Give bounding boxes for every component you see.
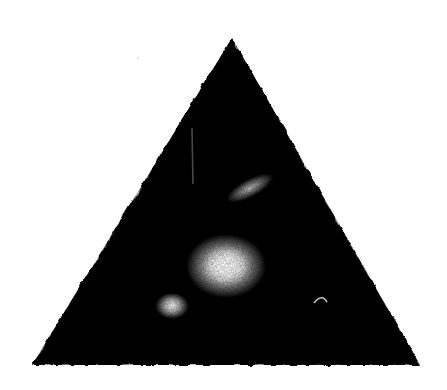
artboard: Triangle Halftone Print High-contrast bl… [0,0,447,390]
triangle-artwork-svg [0,0,447,390]
paper-speck [136,56,139,59]
vertical-scratch-line [192,128,193,184]
base-edge-ragged [32,360,420,363]
